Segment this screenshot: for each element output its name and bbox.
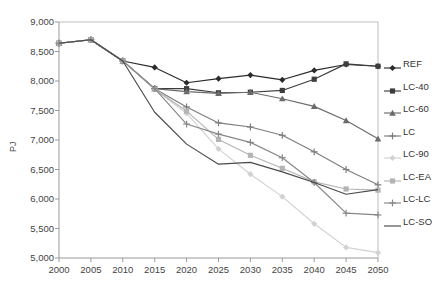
x-tick-label: 2005: [74, 264, 108, 275]
legend-swatch-lc-lc: [384, 194, 401, 204]
x-tick-label: 2045: [329, 264, 363, 275]
legend-label-lc-90: LC-90: [403, 148, 429, 159]
y-tick-label: 8,500: [14, 46, 54, 57]
legend-label-lc: LC: [403, 126, 415, 137]
y-tick-label: 6,500: [14, 164, 54, 175]
legend-label-lc-so: LC-SO: [403, 216, 432, 227]
series-lc-so: [59, 40, 378, 195]
series-lc: [56, 36, 382, 188]
legend-swatch-ref: [384, 59, 401, 69]
y-tick-label: 6,000: [14, 193, 54, 204]
legend-swatch-lc-so: [384, 217, 401, 227]
y-tick-label: 5,500: [14, 223, 54, 234]
x-tick-label: 2050: [361, 264, 395, 275]
series-ref: [56, 37, 381, 86]
x-tick-label: 2020: [170, 264, 204, 275]
series-lc-ea: [56, 37, 380, 193]
legend-swatch-lc-60: [384, 104, 401, 114]
x-tick-label: 2010: [106, 264, 140, 275]
legend-label-lc-40: LC-40: [403, 81, 429, 92]
legend-swatch-lc-ea: [384, 172, 401, 182]
y-tick-label: 9,000: [14, 16, 54, 27]
legend-swatch-lc: [384, 127, 401, 137]
y-tick-label: 8,000: [14, 75, 54, 86]
chart-canvas: [0, 0, 445, 299]
legend-label-lc-lc: LC-LC: [403, 193, 430, 204]
series-lc-lc: [56, 36, 382, 218]
legend-label-lc-ea: LC-EA: [403, 171, 431, 182]
series-lc-40: [56, 37, 380, 95]
legend-swatch-lc-90: [384, 149, 401, 159]
y-tick-label: 7,000: [14, 134, 54, 145]
x-tick-label: 2025: [202, 264, 236, 275]
series-lc-90: [56, 37, 381, 256]
legend-swatch-lc-40: [384, 82, 401, 92]
legend-label-ref: REF: [403, 58, 422, 69]
y-tick-label: 7,500: [14, 105, 54, 116]
x-tick-label: 2015: [138, 264, 172, 275]
x-tick-label: 2000: [42, 264, 76, 275]
line-chart: PJ 9,0008,5008,0007,5007,0006,5006,0005,…: [0, 0, 445, 299]
x-tick-label: 2030: [233, 264, 267, 275]
series-lines: [56, 36, 382, 255]
legend-label-lc-60: LC-60: [403, 103, 429, 114]
x-tick-label: 2035: [265, 264, 299, 275]
y-tick-label: 5,000: [14, 252, 54, 263]
x-tick-label: 2040: [297, 264, 331, 275]
